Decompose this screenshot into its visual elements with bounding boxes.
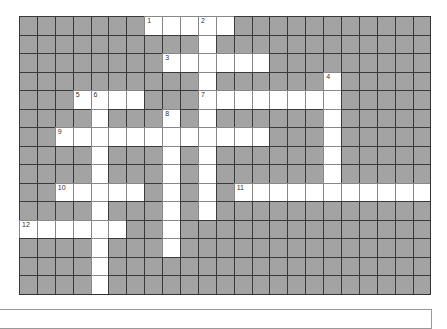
crossword-cell-open[interactable] <box>198 127 216 146</box>
crossword-cell-open[interactable] <box>305 90 323 109</box>
crossword-cell-open[interactable] <box>216 127 234 146</box>
crossword-cell-open[interactable]: 12 <box>19 220 37 239</box>
crossword-cell-open[interactable] <box>55 220 73 239</box>
crossword-cell-open[interactable] <box>91 275 109 294</box>
crossword-cell-open[interactable] <box>73 220 91 239</box>
crossword-cell-open[interactable] <box>91 164 109 183</box>
crossword-cell-open[interactable] <box>108 90 126 109</box>
crossword-cell-open[interactable] <box>341 183 359 202</box>
crossword-cell-open[interactable] <box>126 90 144 109</box>
crossword-cell-open[interactable] <box>216 53 234 72</box>
crossword-cell-block <box>413 201 431 220</box>
crossword-cell-open[interactable]: 2 <box>198 16 216 35</box>
crossword-cell-open[interactable] <box>91 257 109 276</box>
crossword-cell-open[interactable] <box>198 53 216 72</box>
crossword-cell-open[interactable] <box>180 127 198 146</box>
crossword-cell-open[interactable] <box>73 183 91 202</box>
crossword-cell-open[interactable] <box>252 127 270 146</box>
crossword-cell-open[interactable]: 6 <box>91 90 109 109</box>
crossword-cell-open[interactable] <box>126 183 144 202</box>
crossword-cell-open[interactable] <box>198 35 216 54</box>
crossword-cell-open[interactable] <box>198 164 216 183</box>
crossword-cell-open[interactable]: 9 <box>55 127 73 146</box>
crossword-cell-open[interactable] <box>162 164 180 183</box>
crossword-cell-open[interactable] <box>91 127 109 146</box>
crossword-cell-open[interactable] <box>287 183 305 202</box>
crossword-cell-open[interactable]: 7 <box>198 90 216 109</box>
crossword-cell-open[interactable] <box>73 127 91 146</box>
crossword-cell-block <box>377 257 395 276</box>
crossword-cell-open[interactable] <box>91 201 109 220</box>
crossword-cell-block <box>126 164 144 183</box>
crossword-cell-open[interactable] <box>234 53 252 72</box>
crossword-cell-open[interactable]: 11 <box>234 183 252 202</box>
crossword-cell-open[interactable] <box>252 90 270 109</box>
crossword-cell-open[interactable] <box>323 146 341 165</box>
crossword-cell-block <box>144 53 162 72</box>
crossword-cell-open[interactable]: 8 <box>162 109 180 128</box>
crossword-cell-open[interactable] <box>91 109 109 128</box>
crossword-cell-open[interactable]: 1 <box>144 16 162 35</box>
crossword-cell-open[interactable] <box>269 90 287 109</box>
crossword-cell-block <box>287 275 305 294</box>
crossword-cell-open[interactable] <box>198 72 216 91</box>
crossword-cell-open[interactable] <box>359 183 377 202</box>
crossword-cell-open[interactable] <box>377 183 395 202</box>
crossword-cell-open[interactable]: 10 <box>55 183 73 202</box>
crossword-cell-open[interactable] <box>126 127 144 146</box>
crossword-cell-open[interactable] <box>287 90 305 109</box>
crossword-cell-open[interactable] <box>198 201 216 220</box>
crossword-cell-open[interactable]: 5 <box>73 90 91 109</box>
crossword-cell-open[interactable] <box>162 201 180 220</box>
crossword-cell-open[interactable] <box>108 127 126 146</box>
crossword-cell-open[interactable] <box>162 16 180 35</box>
crossword-cell-open[interactable] <box>252 183 270 202</box>
crossword-cell-block <box>287 16 305 35</box>
crossword-cell-open[interactable] <box>108 220 126 239</box>
crossword-cell-open[interactable] <box>323 90 341 109</box>
crossword-cell-open[interactable] <box>91 183 109 202</box>
crossword-cell-open[interactable] <box>162 220 180 239</box>
crossword-cell-block <box>180 201 198 220</box>
crossword-cell-open[interactable] <box>252 53 270 72</box>
crossword-cell-block <box>359 109 377 128</box>
crossword-cell-open[interactable] <box>144 127 162 146</box>
crossword-cell-open[interactable] <box>234 127 252 146</box>
crossword-cell-open[interactable] <box>323 164 341 183</box>
crossword-cell-open[interactable] <box>108 183 126 202</box>
crossword-cell-block <box>413 257 431 276</box>
crossword-cell-open[interactable]: 3 <box>162 53 180 72</box>
crossword-cell-open[interactable] <box>162 146 180 165</box>
crossword-cell-open[interactable]: 4 <box>323 72 341 91</box>
crossword-cell-open[interactable] <box>198 146 216 165</box>
crossword-cell-open[interactable] <box>234 90 252 109</box>
crossword-cell-open[interactable] <box>323 183 341 202</box>
crossword-cell-open[interactable] <box>305 183 323 202</box>
crossword-cell-open[interactable] <box>269 183 287 202</box>
crossword-cell-open[interactable] <box>180 16 198 35</box>
crossword-cell-open[interactable] <box>216 16 234 35</box>
crossword-cell-open[interactable] <box>216 90 234 109</box>
crossword-cell-open[interactable] <box>323 127 341 146</box>
crossword-cell-block <box>287 238 305 257</box>
crossword-cell-block <box>269 164 287 183</box>
crossword-cell-open[interactable] <box>162 238 180 257</box>
crossword-cell-block <box>341 109 359 128</box>
crossword-cell-block <box>126 53 144 72</box>
crossword-cell-open[interactable] <box>413 183 431 202</box>
crossword-cell-open[interactable] <box>198 109 216 128</box>
crossword-cell-open[interactable] <box>162 183 180 202</box>
crossword-cell-open[interactable] <box>91 220 109 239</box>
clue-number: 8 <box>165 110 169 118</box>
crossword-cell-open[interactable] <box>37 220 55 239</box>
crossword-cell-open[interactable] <box>198 183 216 202</box>
crossword-cell-open[interactable] <box>180 53 198 72</box>
crossword-cell-block <box>216 201 234 220</box>
crossword-cell-open[interactable] <box>91 238 109 257</box>
clue-number: 1 <box>147 17 151 25</box>
crossword-cell-open[interactable] <box>91 146 109 165</box>
crossword-cell-block <box>377 109 395 128</box>
crossword-cell-open[interactable] <box>323 109 341 128</box>
crossword-cell-open[interactable] <box>162 127 180 146</box>
crossword-cell-open[interactable] <box>395 183 413 202</box>
